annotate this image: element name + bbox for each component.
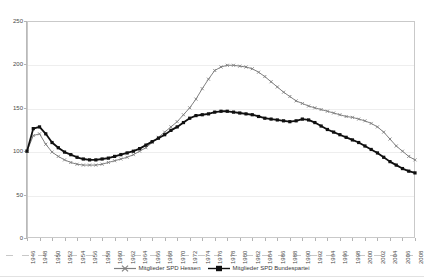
data-point-marker: [307, 118, 310, 121]
data-point-marker: [401, 167, 404, 170]
data-point-marker: [194, 114, 197, 117]
data-point-marker: [107, 157, 110, 160]
x-tick-mark: [302, 238, 303, 241]
legend-label-hessen: Mitglieder SPD Hessen: [138, 265, 200, 272]
legend-label-bundespartei: Mitglieder SPD Bundespartei: [232, 265, 309, 272]
data-point-marker: [382, 131, 385, 134]
series-layer: [27, 21, 415, 238]
x-tick-mark: [227, 238, 228, 241]
y-axis: 050100150200250: [0, 0, 27, 259]
x-tick-mark: [165, 238, 166, 241]
data-point-marker: [44, 143, 47, 146]
data-point-marker: [301, 117, 304, 120]
data-point-marker: [238, 111, 241, 114]
data-point-marker: [376, 151, 379, 154]
data-point-marker: [395, 163, 398, 166]
y-tick-label: 50: [16, 192, 23, 198]
data-point-marker: [395, 144, 398, 147]
series-line-bundespartei: [27, 111, 415, 173]
data-point-marker: [382, 156, 385, 159]
x-tick-mark: [315, 238, 316, 241]
data-point-marker: [119, 153, 122, 156]
data-point-marker: [326, 128, 329, 131]
data-point-marker: [132, 150, 135, 153]
data-point-marker: [182, 121, 185, 124]
data-point-marker: [388, 160, 391, 163]
x-tick-mark: [90, 238, 91, 241]
x-tick-mark: [215, 238, 216, 241]
y-tick-label: 100: [13, 148, 23, 154]
footer-divider: [0, 276, 424, 277]
x-tick-mark: [152, 238, 153, 241]
top-caption: [0, 0, 424, 9]
x-tick-mark: [240, 238, 241, 241]
data-point-marker: [213, 69, 216, 72]
legend-entry-hessen[interactable]: Mitglieder SPD Hessen: [114, 265, 200, 272]
x-tick-mark: [140, 238, 141, 241]
y-tick-label: 250: [13, 18, 23, 24]
data-point-marker: [25, 150, 28, 153]
chart-legend: Mitglieder SPD Hessen Mitglieder SPD Bun…: [0, 262, 424, 275]
data-point-marker: [345, 136, 348, 139]
data-point-marker: [388, 138, 391, 141]
x-tick-mark: [127, 238, 128, 241]
x-tick-mark: [277, 238, 278, 241]
data-point-marker: [219, 110, 222, 113]
data-point-marker: [413, 171, 416, 174]
x-tick-mark: [115, 238, 116, 241]
data-point-marker: [357, 141, 360, 144]
data-point-marker: [188, 117, 191, 120]
data-point-marker: [295, 119, 298, 122]
x-tick-mark: [390, 238, 391, 241]
data-point-marker: [182, 113, 185, 116]
data-point-marker: [251, 113, 254, 116]
legend-entry-bundespartei[interactable]: Mitglieder SPD Bundespartei: [208, 265, 309, 272]
data-point-marker: [201, 113, 204, 116]
data-point-marker: [63, 150, 66, 153]
data-point-marker: [138, 147, 141, 150]
x-tick-mark: [102, 238, 103, 241]
data-point-marker: [94, 158, 97, 161]
data-point-marker: [69, 153, 72, 156]
data-point-marker: [288, 120, 291, 123]
data-point-marker: [320, 124, 323, 127]
data-point-marker: [188, 106, 191, 109]
data-point-marker: [32, 127, 35, 130]
data-point-marker: [213, 111, 216, 114]
data-point-marker: [101, 157, 104, 160]
data-point-marker: [207, 112, 210, 115]
data-point-marker: [282, 91, 285, 94]
data-point-marker: [51, 151, 54, 154]
x-tick-mark: [27, 238, 28, 241]
data-point-marker: [207, 78, 210, 81]
data-point-marker: [269, 117, 272, 120]
x-tick-mark: [252, 238, 253, 241]
data-point-marker: [113, 155, 116, 158]
x-tick-mark: [40, 238, 41, 241]
data-point-marker: [276, 118, 279, 121]
x-tick-mark: [202, 238, 203, 241]
data-point-marker: [338, 133, 341, 136]
data-point-marker: [57, 146, 60, 149]
data-point-marker: [263, 75, 266, 78]
data-point-marker: [151, 140, 154, 143]
data-point-marker: [126, 151, 129, 154]
data-point-marker: [288, 95, 291, 98]
data-point-marker: [257, 115, 260, 118]
data-point-marker: [370, 148, 373, 151]
data-point-marker: [226, 110, 229, 113]
data-point-marker: [244, 112, 247, 115]
y-tick-label: 0: [20, 235, 23, 241]
data-point-marker: [201, 87, 204, 90]
x-tick-mark: [377, 238, 378, 241]
x-tick-mark: [352, 238, 353, 241]
series-line-hessen: [27, 65, 415, 165]
data-point-marker: [257, 71, 260, 74]
legend-marker-cross-icon: [114, 265, 136, 272]
data-point-marker: [176, 125, 179, 128]
data-point-marker: [263, 117, 266, 120]
data-point-marker: [276, 85, 279, 88]
x-tick-mark: [265, 238, 266, 241]
data-point-marker: [282, 119, 285, 122]
chart-container: 050100150200250 194619481950195219541956…: [0, 0, 424, 279]
